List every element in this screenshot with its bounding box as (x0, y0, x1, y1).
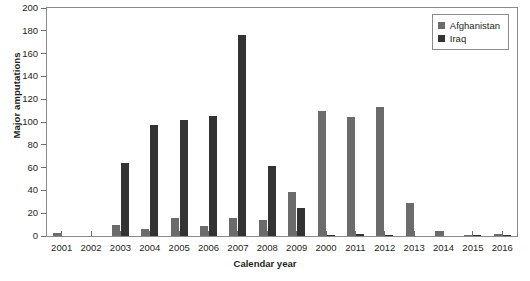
x-tick-mark (91, 231, 92, 236)
y-tick-label: 20 (27, 206, 38, 219)
legend-item-iraq[interactable]: Iraq (438, 32, 500, 45)
bar-afghanistan-2004 (141, 229, 149, 236)
legend-swatch-icon (438, 22, 445, 29)
x-tick-mark (149, 231, 150, 236)
bar-iraq-2005 (180, 120, 188, 236)
x-tick-mark (179, 231, 180, 236)
bar-afghanistan-2016 (494, 234, 502, 236)
x-tick-mark (296, 231, 297, 236)
legend-label: Iraq (450, 32, 466, 45)
y-tick-label: 80 (27, 138, 38, 151)
y-tick-label: 60 (27, 161, 38, 174)
y-axis-title: Major amputations (11, 36, 22, 156)
y-tick-label: 0 (33, 229, 38, 242)
bar-iraq-2000 (327, 235, 335, 236)
bar-afghanistan-2001 (53, 233, 61, 236)
y-tick-label: 120 (22, 92, 38, 105)
bar-afghanistan-2008 (259, 220, 267, 236)
x-tick-mark (237, 231, 238, 236)
chart-figure: Major amputations Calendar year 02040608… (0, 0, 530, 281)
y-tick-label: 140 (22, 69, 38, 82)
y-tick-label: 100 (22, 115, 38, 128)
x-tick-mark (120, 231, 121, 236)
bar-afghanistan-2011 (347, 117, 355, 236)
bar-iraq-2003 (121, 163, 129, 236)
bar-iraq-2012 (385, 235, 393, 236)
bar-afghanistan-2003 (112, 225, 120, 236)
bar-iraq-2007 (238, 35, 246, 236)
legend-item-afghanistan[interactable]: Afghanistan (438, 19, 500, 32)
x-tick-mark (355, 231, 356, 236)
y-tick-label: 180 (22, 24, 38, 37)
bar-afghanistan-2015 (464, 235, 472, 236)
x-tick-mark (443, 231, 444, 236)
x-tick-mark (208, 231, 209, 236)
bar-iraq-2006 (209, 116, 217, 236)
y-tick-label: 40 (27, 183, 38, 196)
bar-iraq-2015 (473, 235, 481, 236)
x-tick-mark (472, 231, 473, 236)
y-tick-label: 160 (22, 47, 38, 60)
x-tick-mark (326, 231, 327, 236)
x-axis-title: Calendar year (0, 258, 530, 269)
legend-swatch-icon (438, 35, 445, 42)
x-tick-label: 2016 (485, 242, 519, 253)
bar-afghanistan-2014 (435, 231, 443, 236)
bar-afghanistan-2009 (288, 192, 296, 236)
y-tick-label: 200 (22, 1, 38, 14)
x-tick-mark (61, 231, 62, 236)
bar-afghanistan-2006 (200, 226, 208, 236)
bar-iraq-2011 (356, 234, 364, 236)
bar-iraq-2008 (268, 166, 276, 236)
x-tick-mark (502, 231, 503, 236)
x-tick-mark (414, 231, 415, 236)
bar-iraq-2004 (150, 125, 158, 236)
bar-afghanistan-2000 (318, 111, 326, 236)
bar-afghanistan-2013 (406, 203, 414, 236)
bar-iraq-2016 (503, 235, 511, 236)
x-tick-mark (267, 231, 268, 236)
bar-afghanistan-2005 (171, 218, 179, 236)
bar-iraq-2009 (297, 208, 305, 237)
legend-label: Afghanistan (450, 19, 500, 32)
plot-area: 2001200220032004200520062007200820092000… (46, 7, 518, 237)
x-tick-mark (384, 231, 385, 236)
bar-afghanistan-2012 (376, 107, 384, 236)
bar-afghanistan-2007 (229, 218, 237, 236)
chart-legend: AfghanistanIraq (432, 14, 509, 50)
